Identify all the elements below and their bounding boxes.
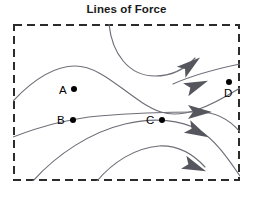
field-line-group <box>13 24 240 181</box>
arrow-upper-mid-icon <box>183 74 210 96</box>
node-label-a: A <box>59 85 67 97</box>
arrowhead-group <box>177 52 212 178</box>
field-line-upper-left-crest <box>13 66 240 114</box>
field-line-rising-from-bottom-left <box>33 120 199 181</box>
node-dot-c <box>159 117 165 123</box>
field-line-lower-right-outflow <box>199 112 240 132</box>
node-label-b: B <box>57 115 65 127</box>
node-dot-a <box>71 86 77 92</box>
node-dot-d <box>226 79 232 85</box>
page-title: Lines of Force <box>0 3 253 15</box>
node-dot-b <box>70 117 76 123</box>
node-label-c: C <box>146 115 154 127</box>
lines-of-force-diagram: Lines of Force ABCD <box>0 0 253 198</box>
field-line-lower-right-descend-1 <box>199 130 240 176</box>
arrow-lower-mid-icon <box>184 120 212 143</box>
field-line-through-B-horizontal <box>13 112 199 137</box>
node-label-d: D <box>224 88 232 100</box>
field-lines-canvas <box>13 24 240 181</box>
field-region-border: ABCD <box>13 24 240 181</box>
